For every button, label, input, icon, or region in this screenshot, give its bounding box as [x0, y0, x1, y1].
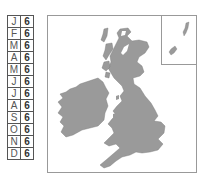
islay-shape: [105, 72, 110, 78]
ireland-shape: [58, 78, 109, 137]
orkney-shape: [169, 46, 177, 55]
shetland-shape: [183, 22, 189, 36]
hebrides-shape: [101, 28, 108, 42]
british-isles-map: [0, 0, 203, 185]
isle-of-man-shape: [116, 95, 119, 100]
